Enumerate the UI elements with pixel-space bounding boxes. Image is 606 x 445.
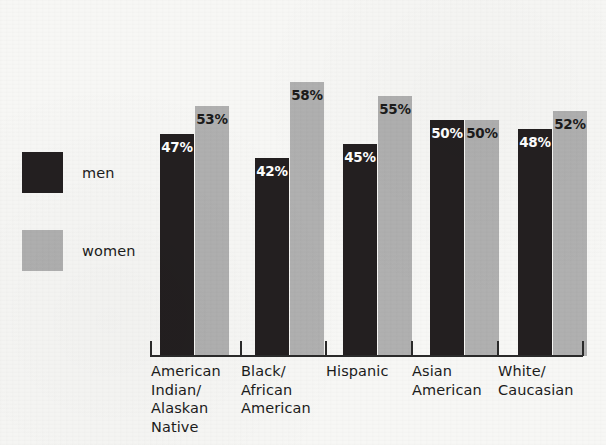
bar-women: 58%: [290, 82, 324, 356]
bar-men: 42%: [255, 158, 289, 356]
bar-group-bars: 50%50%: [430, 0, 499, 356]
category-label: Asian American: [412, 362, 482, 399]
bar-men: 45%: [343, 144, 377, 356]
bar-women: 52%: [553, 111, 587, 356]
bar-men: 48%: [518, 129, 552, 356]
bar-group-bars: 48%52%: [518, 0, 587, 356]
bar-value-label: 50%: [465, 125, 499, 141]
x-axis-tick: [497, 341, 499, 356]
bar-chart: men women 47%53%American Indian/ Alaskan…: [0, 0, 606, 445]
bar-value-label: 47%: [160, 139, 194, 155]
bar-women: 55%: [378, 96, 412, 356]
x-axis-tick: [411, 341, 413, 356]
bar-group-bars: 45%55%: [343, 0, 412, 356]
bar-value-label: 45%: [343, 149, 377, 165]
bar-value-label: 55%: [378, 101, 412, 117]
bar-value-label: 48%: [518, 134, 552, 150]
bar-men: 47%: [160, 134, 194, 356]
category-label: American Indian/ Alaskan Native: [151, 362, 221, 436]
bar-women: 53%: [195, 106, 229, 356]
plot-area: 47%53%American Indian/ Alaskan Native42%…: [0, 0, 606, 445]
x-axis-tick: [240, 341, 242, 356]
bar-group-bars: 42%58%: [255, 0, 324, 356]
x-axis-tick: [325, 341, 327, 356]
bar-men: 50%: [430, 120, 464, 356]
category-label: Black/ African American: [241, 362, 311, 418]
bar-value-label: 52%: [553, 116, 587, 132]
bar-value-label: 42%: [255, 163, 289, 179]
category-label: Hispanic: [326, 362, 389, 381]
bar-value-label: 50%: [430, 125, 464, 141]
x-axis-tick: [582, 341, 584, 356]
bar-value-label: 53%: [195, 111, 229, 127]
bar-women: 50%: [465, 120, 499, 356]
x-axis-tick: [150, 341, 152, 356]
category-label: White/ Caucasian: [498, 362, 574, 399]
bar-group-bars: 47%53%: [160, 0, 229, 356]
x-axis-line: [150, 355, 583, 357]
bar-value-label: 58%: [290, 87, 324, 103]
